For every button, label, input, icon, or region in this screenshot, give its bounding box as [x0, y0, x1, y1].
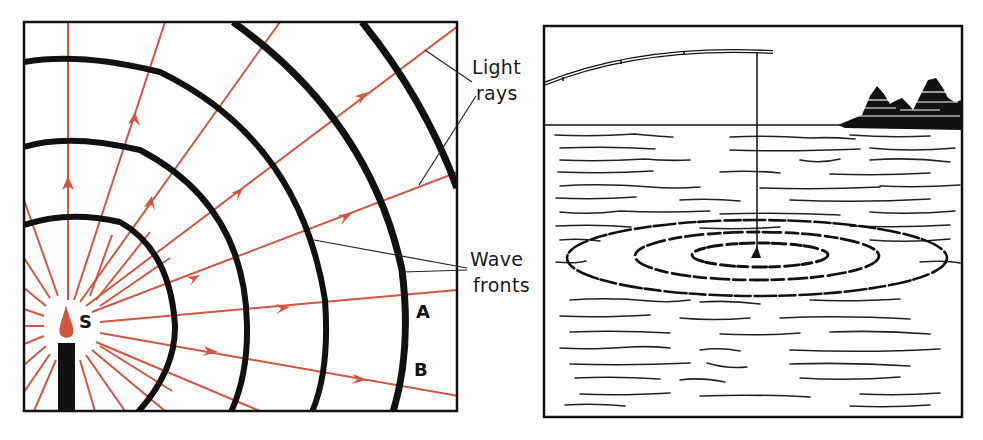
tree-line-icon	[838, 78, 962, 130]
right-panel	[544, 26, 962, 417]
left-panel	[24, 22, 476, 412]
wave-front-4	[233, 22, 405, 412]
flame-icon	[60, 305, 74, 338]
label-source-s: S	[79, 311, 92, 332]
fishing-rod-icon	[544, 51, 773, 84]
label-point-b: B	[414, 359, 428, 380]
ray-arrowheads	[62, 92, 368, 384]
light-rays	[24, 22, 458, 412]
bobber-icon	[751, 246, 761, 258]
wave-front-2	[24, 141, 247, 412]
label-rays: rays	[476, 82, 518, 104]
candle-icon	[58, 343, 75, 411]
label-light: Light	[472, 56, 521, 78]
figure: Light rays Wave fronts A B S	[0, 0, 983, 440]
wave-fronts	[24, 22, 457, 412]
wave-front-5	[362, 22, 457, 188]
right-frame	[544, 26, 962, 417]
label-wave: Wave	[470, 248, 523, 270]
label-fronts: fronts	[473, 274, 530, 296]
label-point-a: A	[416, 301, 430, 322]
